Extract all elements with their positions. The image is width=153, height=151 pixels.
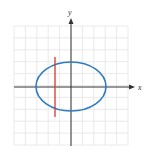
y-axis-arrow-icon: [69, 18, 74, 24]
graph-figure: x y: [0, 0, 153, 151]
coordinate-plane: x y: [0, 0, 153, 151]
y-axis-label: y: [67, 8, 72, 17]
x-axis-label: x: [137, 83, 142, 92]
x-axis-arrow-icon: [129, 85, 135, 90]
